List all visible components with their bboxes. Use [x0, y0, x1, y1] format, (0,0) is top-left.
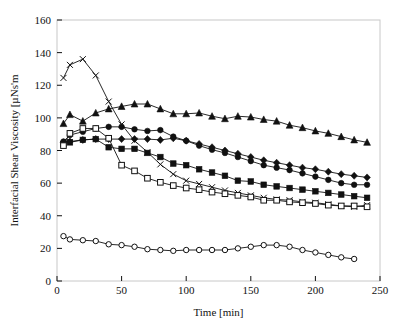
data-point: [61, 233, 66, 238]
data-point: [364, 195, 370, 201]
data-point: [274, 184, 280, 190]
data-point: [145, 246, 150, 251]
data-point: [222, 247, 227, 252]
y-tick-label: 60: [40, 177, 52, 189]
data-point: [261, 242, 266, 247]
data-point: [338, 180, 344, 186]
data-point: [158, 247, 163, 252]
data-point: [119, 146, 125, 152]
data-point: [313, 201, 319, 207]
data-point: [170, 183, 176, 189]
data-point: [119, 162, 125, 168]
x-tick-label: 100: [178, 284, 195, 296]
data-point: [313, 174, 319, 180]
y-tick-label: 120: [35, 79, 52, 91]
x-tick-label: 250: [372, 284, 389, 296]
data-point: [339, 255, 344, 260]
data-point: [338, 192, 344, 198]
data-point: [351, 193, 357, 199]
data-point: [313, 250, 318, 255]
data-point: [184, 247, 189, 252]
data-point: [80, 126, 86, 132]
data-point: [287, 244, 292, 249]
data-point: [67, 131, 73, 137]
chart-background: [0, 0, 401, 321]
x-tick-label: 50: [116, 284, 128, 296]
data-point: [235, 178, 241, 184]
data-point: [132, 244, 137, 249]
data-point: [196, 187, 202, 193]
data-point: [300, 247, 305, 252]
data-point: [183, 185, 189, 191]
data-point: [67, 140, 73, 146]
x-axis-title: Time [min]: [193, 306, 243, 318]
data-point: [158, 127, 164, 133]
data-point: [93, 126, 99, 132]
data-point: [80, 238, 85, 243]
data-point: [106, 144, 112, 150]
y-tick-label: 20: [40, 242, 52, 254]
y-tick-label: 80: [40, 145, 52, 157]
data-point: [145, 128, 151, 134]
data-point: [119, 242, 124, 247]
y-tick-label: 100: [35, 112, 52, 124]
data-point: [119, 124, 125, 130]
x-tick-label: 150: [243, 284, 260, 296]
data-point: [222, 173, 228, 179]
data-point: [248, 194, 254, 200]
data-point: [106, 124, 112, 130]
data-point: [209, 247, 214, 252]
data-point: [313, 188, 319, 194]
data-point: [235, 193, 241, 199]
data-point: [67, 237, 72, 242]
y-tick-label: 140: [35, 47, 52, 59]
data-point: [61, 143, 67, 149]
data-point: [326, 177, 332, 183]
data-point: [338, 203, 344, 209]
data-point: [261, 182, 267, 188]
y-tick-label: 0: [46, 275, 52, 287]
x-tick-label: 0: [54, 284, 60, 296]
y-tick-label: 40: [40, 210, 52, 222]
data-point: [158, 154, 164, 160]
data-point: [351, 256, 356, 261]
data-point: [171, 248, 176, 253]
data-point: [170, 161, 176, 167]
data-point: [209, 170, 215, 176]
data-point: [351, 203, 357, 209]
data-point: [209, 189, 215, 195]
data-point: [351, 182, 357, 188]
data-point: [132, 146, 138, 152]
data-point: [80, 137, 86, 143]
data-point: [364, 204, 370, 210]
data-point: [145, 175, 151, 181]
data-point: [222, 191, 228, 197]
chart-svg: 050100150200250 020406080100120140160 Ti…: [0, 0, 401, 321]
y-axis-title: Interfacial Shear Viscosity [µNs'm: [8, 74, 20, 226]
data-point: [300, 200, 306, 206]
data-point: [158, 180, 164, 186]
data-point: [287, 185, 293, 191]
data-point: [326, 252, 331, 257]
data-point: [300, 187, 306, 193]
data-point: [326, 190, 332, 196]
data-point: [183, 162, 189, 168]
data-point: [364, 182, 370, 188]
data-point: [235, 246, 240, 251]
data-point: [326, 202, 332, 208]
data-point: [274, 242, 279, 247]
x-tick-label: 200: [307, 284, 324, 296]
data-point: [93, 136, 99, 142]
data-point: [196, 247, 201, 252]
data-point: [261, 197, 267, 203]
data-point: [106, 242, 111, 247]
y-tick-label: 160: [35, 14, 52, 26]
data-point: [248, 244, 253, 249]
data-point: [106, 135, 112, 141]
data-point: [132, 126, 138, 132]
data-point: [274, 197, 280, 203]
data-point: [248, 179, 254, 185]
data-point: [196, 166, 202, 172]
data-point: [287, 199, 293, 205]
data-point: [132, 168, 138, 174]
